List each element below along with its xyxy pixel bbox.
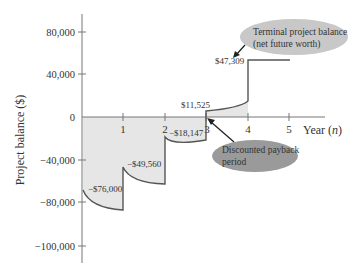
y-tick-labels: 80,000 40,000 0 −40,000 −80,000 −100,000 bbox=[35, 27, 75, 252]
y-axis-label: Project balance ($) bbox=[13, 95, 27, 186]
svg-text:−40,000: −40,000 bbox=[40, 155, 75, 166]
svg-text:5: 5 bbox=[286, 123, 292, 135]
arrow-payback bbox=[211, 122, 234, 142]
svg-text:−$49,560: −$49,560 bbox=[127, 159, 162, 169]
svg-text:−100,000: −100,000 bbox=[35, 241, 75, 252]
callout-terminal-balance bbox=[240, 19, 348, 55]
svg-text:Discounted payback: Discounted payback bbox=[222, 145, 300, 155]
svg-text:1: 1 bbox=[120, 123, 126, 135]
svg-text:4: 4 bbox=[245, 123, 251, 135]
project-balance-chart: 80,000 40,000 0 −40,000 −80,000 −100,000… bbox=[0, 0, 356, 277]
svg-text:(net future worth): (net future worth) bbox=[253, 39, 321, 50]
svg-text:period: period bbox=[222, 157, 247, 167]
svg-text:$11,525: $11,525 bbox=[181, 100, 210, 110]
svg-text:2: 2 bbox=[162, 123, 168, 135]
x-axis-label: Year (n) bbox=[303, 123, 342, 137]
svg-text:$47,309: $47,309 bbox=[215, 56, 245, 66]
svg-text:40,000: 40,000 bbox=[46, 69, 75, 80]
svg-text:80,000: 80,000 bbox=[46, 27, 75, 38]
svg-text:−$76,000: −$76,000 bbox=[88, 184, 123, 194]
svg-text:−$18,147: −$18,147 bbox=[169, 128, 204, 138]
svg-text:−80,000: −80,000 bbox=[40, 197, 75, 208]
svg-text:0: 0 bbox=[70, 112, 75, 123]
svg-text:3: 3 bbox=[204, 123, 210, 135]
svg-text:Terminal project balance: Terminal project balance bbox=[253, 27, 347, 37]
